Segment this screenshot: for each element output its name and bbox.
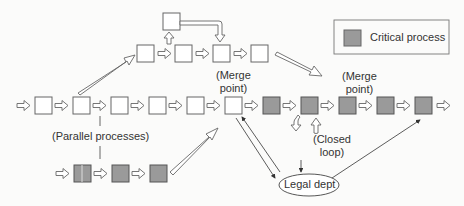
legal-dept-label: Legal dept: [284, 178, 335, 191]
bent-arrow: [180, 21, 225, 42]
top-process-box: [163, 13, 180, 30]
process-box: [175, 45, 192, 62]
critical-process-box: [301, 97, 318, 114]
legend-label: Critical process: [370, 31, 445, 44]
closed-loop: [291, 115, 321, 134]
merge-point-label-1: (Merge point): [216, 69, 251, 95]
closed-loop-line: (Closed: [313, 133, 351, 146]
process-box: [111, 97, 128, 114]
critical-process-box: [377, 97, 394, 114]
critical-process-box: [112, 165, 129, 182]
process-box: [73, 97, 90, 114]
merge-label-line: point): [342, 83, 377, 96]
legend-swatch: [344, 30, 361, 46]
process-box: [225, 97, 242, 114]
process-box: [187, 97, 204, 114]
merge-label-line: (Merge: [342, 70, 377, 83]
process-box: [149, 97, 166, 114]
merge-label-line: point): [216, 82, 251, 95]
process-box: [251, 45, 268, 62]
process-box: [35, 97, 52, 114]
merge-label-line: (Merge: [216, 69, 251, 82]
parallel-processes-label: (Parallel processes): [52, 130, 149, 143]
merge-point-label-2: (Merge point): [342, 70, 377, 96]
critical-process-box: [150, 165, 167, 182]
critical-process-box: [415, 97, 432, 114]
parallel-branch: [56, 116, 218, 182]
closed-loop-label: (Closed loop): [313, 133, 351, 159]
diverge-arrow: [78, 55, 135, 95]
process-box: [213, 45, 230, 62]
up-arrow: [164, 32, 174, 44]
merge-arrow: [275, 52, 322, 76]
process-box: [137, 45, 154, 62]
rejoin-arrow: [170, 128, 218, 175]
critical-process-box: [339, 97, 356, 114]
process-flow-diagram: Critical process (Merge point) (Merge po…: [0, 0, 464, 206]
upper-branch: [78, 13, 322, 95]
loop-up-arrow: [311, 118, 321, 134]
loop-down-arrow: [291, 115, 301, 131]
critical-process-box: [263, 97, 280, 114]
closed-loop-line: loop): [313, 146, 351, 159]
